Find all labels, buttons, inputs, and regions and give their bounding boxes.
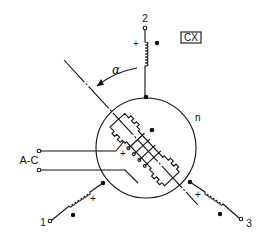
ac-terminal-bottom	[37, 168, 41, 172]
terminal-1-label: 1	[40, 217, 46, 228]
terminal-3-label: 3	[246, 218, 252, 229]
ac-label: A-C	[20, 154, 39, 166]
terminal-1	[48, 219, 52, 223]
junction-2	[144, 95, 149, 100]
rotor	[108, 111, 182, 187]
terminal-2-label: 2	[142, 13, 148, 24]
alpha-label: α	[112, 63, 120, 77]
winding-2-plus: +	[133, 38, 139, 49]
rotor-dot-icon	[150, 128, 155, 133]
stator-winding-3	[190, 182, 239, 218]
stator-winding-2	[145, 30, 148, 97]
ac-terminal-top	[37, 149, 41, 153]
winding-2-dot-icon	[155, 41, 159, 45]
winding-3-plus: +	[195, 189, 201, 200]
synchro-cx-diagram: α CX 2 + n 1 + 3 + + A-C	[0, 0, 262, 244]
ac-lead-bottom	[41, 170, 138, 183]
neutral-label: n	[195, 112, 201, 123]
terminal-2	[143, 26, 147, 30]
rotor-axis-line	[64, 60, 198, 205]
winding-1-plus: +	[90, 193, 96, 204]
winding-1-dot-icon	[71, 213, 75, 217]
rotor-plus: +	[120, 148, 126, 159]
ac-lead-top	[41, 141, 124, 151]
rotor-body	[108, 111, 182, 187]
terminal-3	[239, 217, 243, 221]
cx-label: CX	[184, 32, 198, 43]
winding-3-dot-icon	[218, 212, 222, 216]
alpha-arrowhead-icon	[97, 79, 104, 86]
